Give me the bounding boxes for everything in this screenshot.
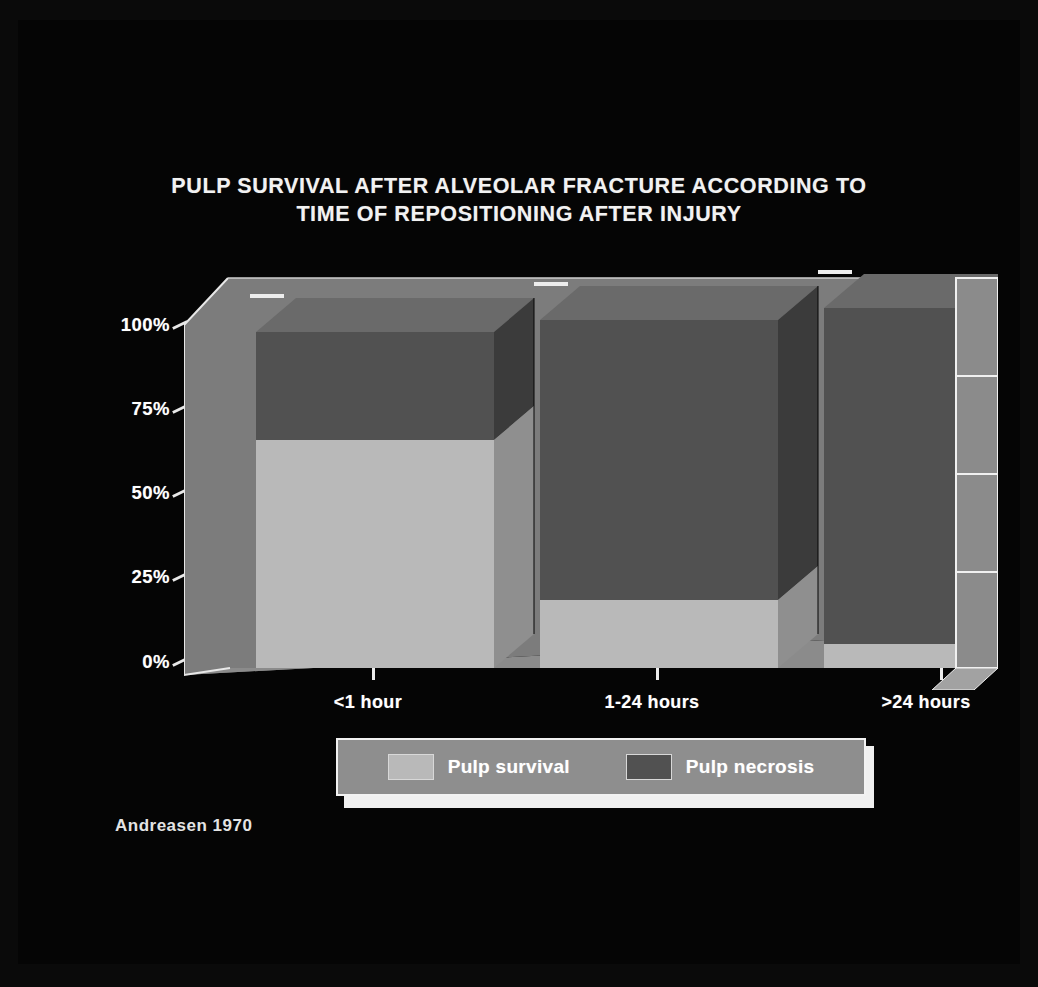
chart-title-line-1: PULP SURVIVAL AFTER ALVEOLAR FRACTURE AC… [18, 172, 1020, 200]
x-tick-label-2: >24 hours [881, 692, 970, 713]
legend-label-pulp-survival: Pulp survival [448, 756, 570, 778]
y-tick-label-75: 75% [131, 398, 170, 420]
chart-title-line-2: TIME OF REPOSITIONING AFTER INJURY [18, 200, 1020, 228]
plot-area: 100% 75% 50% 25% 0% [98, 250, 998, 690]
legend-item-pulp-survival[interactable]: Pulp survival [388, 754, 570, 780]
legend-label-pulp-necrosis: Pulp necrosis [686, 756, 815, 778]
chart-3d-deck [184, 250, 998, 690]
slide-canvas: PULP SURVIVAL AFTER ALVEOLAR FRACTURE AC… [18, 20, 1020, 964]
source-attribution: Andreasen 1970 [115, 816, 252, 836]
legend-swatch-pulp-survival [388, 754, 434, 780]
x-tick-label-0: <1 hour [334, 692, 402, 713]
y-tick-label-50: 50% [131, 482, 170, 504]
y-axis: 100% 75% 50% 25% 0% [98, 250, 184, 690]
chart-title: PULP SURVIVAL AFTER ALVEOLAR FRACTURE AC… [18, 172, 1020, 228]
legend-swatch-pulp-necrosis [626, 754, 672, 780]
y-tick-label-100: 100% [121, 314, 170, 336]
deck-geometry [184, 250, 998, 690]
chart-legend: Pulp survival Pulp necrosis [336, 738, 866, 796]
x-axis: <1 hour 1-24 hours >24 hours [98, 692, 998, 722]
x-tick-label-1: 1-24 hours [604, 692, 699, 713]
y-tick-label-25: 25% [131, 566, 170, 588]
legend-item-pulp-necrosis[interactable]: Pulp necrosis [626, 754, 815, 780]
y-tick-label-0: 0% [142, 651, 170, 673]
